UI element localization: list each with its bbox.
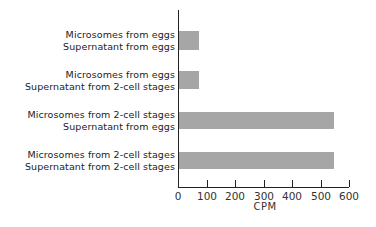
x-tick xyxy=(207,180,208,187)
x-tick-label: 400 xyxy=(277,190,307,202)
category-label-line: Microsomes from 2-cell stages xyxy=(25,149,175,161)
category-label-line: Supernatant from 2-cell stages xyxy=(25,161,175,173)
x-tick-label: 200 xyxy=(220,190,250,202)
x-tick-label: 100 xyxy=(192,190,222,202)
x-tick xyxy=(321,180,322,187)
x-tick-label: 0 xyxy=(163,190,193,202)
x-tick xyxy=(349,180,350,187)
category-label-line: Microsomes from eggs xyxy=(25,69,175,81)
x-tick xyxy=(292,180,293,187)
bar-2 xyxy=(179,71,199,89)
bar-3 xyxy=(179,112,334,129)
category-label-3: Microsomes from 2-cell stages Supernatan… xyxy=(27,109,175,133)
bar-4 xyxy=(179,152,334,169)
category-label-4: Microsomes from 2-cell stages Supernatan… xyxy=(25,149,175,173)
x-tick-label: 600 xyxy=(334,190,364,202)
x-axis-label: CPM xyxy=(250,201,280,212)
x-tick xyxy=(235,180,236,187)
bar-1 xyxy=(179,31,199,50)
category-label-2: Microsomes from eggs Supernatant from 2-… xyxy=(25,69,175,93)
category-label-1: Microsomes from eggs Supernatant from eg… xyxy=(63,29,175,53)
category-label-line: Supernatant from eggs xyxy=(63,41,175,53)
bar-chart: Microsomes from eggs Supernatant from eg… xyxy=(0,0,376,227)
x-tick-label: 500 xyxy=(306,190,336,202)
category-label-line: Microsomes from 2-cell stages xyxy=(27,109,175,121)
x-axis xyxy=(178,187,349,188)
category-label-line: Supernatant from eggs xyxy=(27,121,175,133)
x-tick xyxy=(264,180,265,187)
category-label-line: Supernatant from 2-cell stages xyxy=(25,81,175,93)
category-label-line: Microsomes from eggs xyxy=(63,29,175,41)
